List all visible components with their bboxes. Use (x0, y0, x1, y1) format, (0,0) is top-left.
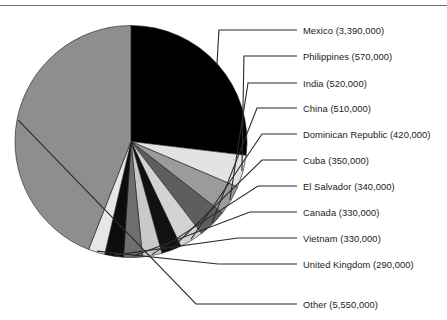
callout-label: Dominican Republic (420,000) (303, 129, 431, 140)
callout-leader-line (242, 56, 297, 171)
callout-label: China (510,000) (303, 103, 371, 114)
callout-label: Cuba (350,000) (303, 155, 369, 166)
callout-leader-line (217, 30, 297, 65)
callout-label: India (520,000) (303, 78, 367, 89)
callout-label: Canada (330,000) (303, 207, 379, 218)
pie-chart-graphic (0, 0, 447, 320)
pie-slice (131, 26, 247, 156)
callout-label: Other (5,550,000) (303, 299, 378, 310)
callout-label: Mexico (3,390,000) (303, 25, 384, 36)
callout-label: El Salvador (340,000) (303, 181, 395, 192)
pie-chart-page: Mexico (3,390,000)Philippines (570,000)I… (0, 0, 447, 320)
callout-label: Vietnam (330,000) (303, 233, 381, 244)
callout-label: Philippines (570,000) (303, 51, 392, 62)
callout-label: United Kingdom (290,000) (303, 259, 414, 270)
